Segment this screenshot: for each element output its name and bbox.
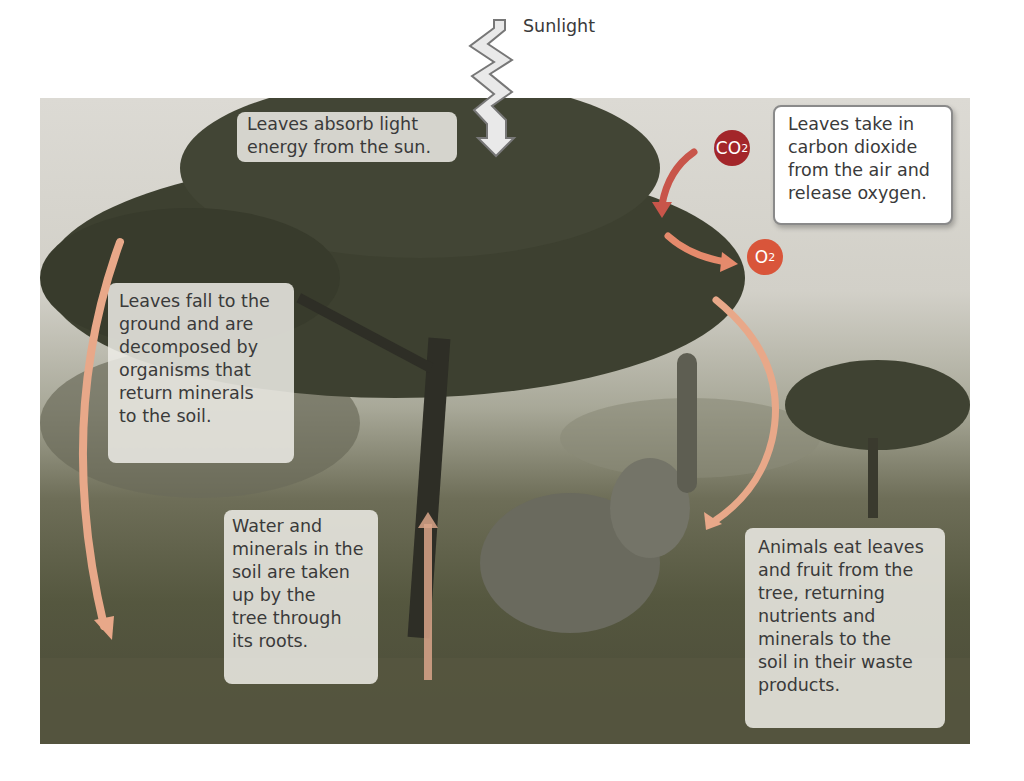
leaf-fall-arrow-icon [83, 242, 120, 640]
co2-arrow-icon [652, 152, 694, 218]
animal-cycle-arrow-icon [704, 300, 776, 530]
sunlight-bolt-icon [470, 20, 514, 156]
o2-arrow-icon [668, 236, 738, 272]
root-uptake-arrow-icon [418, 512, 438, 680]
arrows-overlay [0, 0, 1024, 781]
